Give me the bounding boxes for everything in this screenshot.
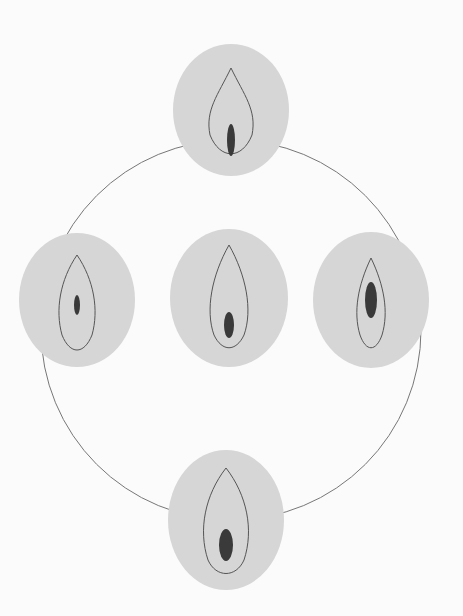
panel-oval [170, 229, 288, 367]
illustration-shading [227, 124, 235, 156]
panel-top [173, 44, 289, 176]
panel-right [313, 232, 429, 368]
panel-bottom [168, 450, 284, 590]
panel-oval [173, 44, 289, 176]
illustration-shading [365, 282, 377, 318]
illustration-shading [224, 312, 234, 338]
panel-center [170, 229, 288, 367]
illustration-shading [219, 529, 233, 561]
panel-oval [168, 450, 284, 590]
illustration-shading [74, 295, 80, 315]
panel-left [19, 233, 135, 367]
diagram-canvas [0, 0, 463, 616]
